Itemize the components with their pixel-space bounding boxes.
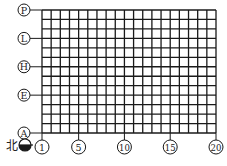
row-axis-label: H: [18, 61, 42, 73]
svg-text:A: A: [20, 128, 28, 139]
row-labels: AEHLP: [18, 4, 42, 139]
svg-text:L: L: [21, 33, 28, 44]
grid: [42, 10, 216, 133]
column-axis-label: 1: [35, 133, 49, 154]
north-label: 北: [6, 139, 18, 153]
north-indicator: 北: [6, 139, 33, 153]
axis-grid-diagram: AEHLP 15101520 北: [0, 0, 227, 166]
column-labels: 15101520: [35, 133, 223, 154]
row-axis-label: A: [18, 127, 42, 139]
svg-text:P: P: [21, 5, 28, 16]
column-axis-label: 10: [117, 133, 131, 154]
svg-text:5: 5: [76, 142, 82, 153]
column-axis-label: 15: [163, 133, 177, 154]
column-axis-label: 5: [72, 133, 86, 154]
row-axis-label: P: [18, 4, 42, 16]
row-axis-label: L: [18, 32, 42, 44]
row-axis-label: E: [18, 89, 42, 101]
svg-text:H: H: [20, 61, 28, 72]
svg-text:E: E: [21, 90, 28, 101]
svg-text:1: 1: [39, 142, 45, 153]
north-arrow-icon: [19, 139, 33, 151]
column-axis-label: 20: [209, 133, 223, 154]
svg-text:20: 20: [211, 143, 222, 153]
svg-text:10: 10: [119, 143, 130, 153]
svg-text:15: 15: [165, 143, 176, 153]
